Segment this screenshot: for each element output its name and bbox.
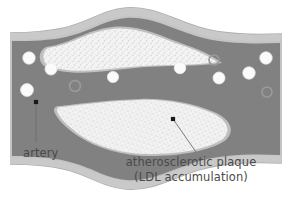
cell-1: [23, 52, 35, 64]
cell-2: [45, 63, 57, 75]
cell-6: [174, 62, 186, 74]
plaque-leader-dot: [171, 117, 175, 121]
artery-leader-dot: [34, 100, 38, 104]
cell-10: [213, 72, 225, 84]
cell-8: [260, 52, 272, 64]
atherosclerosis-diagram: artery atherosclerotic plaque (LDL accum…: [0, 0, 292, 197]
artery-label: artery: [23, 146, 59, 161]
plaque-label-line-1: atherosclerotic plaque: [96, 155, 286, 170]
plaque-label: atherosclerotic plaque (LDL accumulation…: [96, 155, 286, 185]
cell-5: [107, 71, 118, 82]
cell-3: [21, 84, 34, 97]
cell-9: [243, 67, 255, 79]
plaque-label-line-2: (LDL accumulation): [96, 170, 286, 185]
